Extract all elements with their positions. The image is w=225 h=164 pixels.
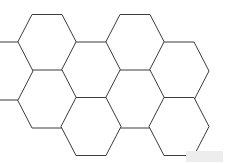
hexagon-grid — [0, 0, 225, 164]
diagram-canvas — [0, 0, 225, 164]
